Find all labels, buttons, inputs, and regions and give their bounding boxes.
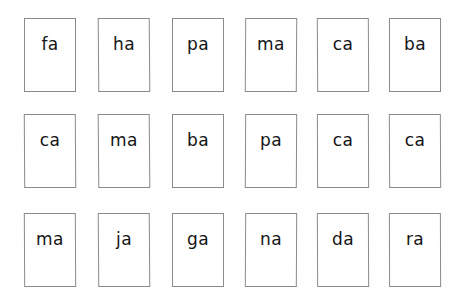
syllable-card[interactable]: pa (245, 114, 297, 188)
syllable-card[interactable]: ga (172, 213, 224, 287)
syllable-card-label: ba (173, 115, 223, 187)
syllable-card-label: na (246, 214, 296, 286)
syllable-card-label: pa (173, 19, 223, 91)
syllable-card[interactable]: ra (389, 213, 441, 287)
syllable-card[interactable]: ha (98, 18, 151, 92)
syllable-card-label: pa (246, 115, 296, 187)
syllable-card[interactable]: ma (245, 18, 297, 92)
syllable-card-label: ha (99, 19, 149, 91)
syllable-card-label: ca (318, 19, 368, 91)
syllable-card-label: ga (173, 214, 223, 286)
syllable-card[interactable]: ja (98, 213, 151, 287)
syllable-card-label: ca (390, 115, 440, 187)
card-row: camabapacaca (0, 114, 464, 190)
flashcard-sheet: fahapamacabacamabapacacamajaganadara (0, 0, 464, 306)
syllable-card[interactable]: ca (317, 114, 369, 188)
syllable-card[interactable]: pa (172, 18, 224, 92)
syllable-card[interactable]: da (317, 213, 369, 287)
syllable-card-label: da (318, 214, 368, 286)
syllable-card-label: ma (246, 19, 296, 91)
syllable-card-label: ma (25, 214, 75, 286)
syllable-card[interactable]: ma (24, 213, 76, 287)
syllable-card[interactable]: ba (389, 18, 441, 92)
syllable-card[interactable]: ma (98, 114, 151, 188)
syllable-card-label: ja (99, 214, 149, 286)
syllable-card-label: fa (25, 19, 75, 91)
syllable-card[interactable]: ca (24, 114, 76, 188)
syllable-card-label: ma (99, 115, 149, 187)
syllable-card-label: ca (25, 115, 75, 187)
syllable-card[interactable]: na (245, 213, 297, 287)
syllable-card[interactable]: ca (389, 114, 441, 188)
card-row: fahapamacaba (0, 18, 464, 94)
syllable-card[interactable]: ba (172, 114, 224, 188)
syllable-card-label: ca (318, 115, 368, 187)
syllable-card[interactable]: fa (24, 18, 76, 92)
syllable-card[interactable]: ca (317, 18, 369, 92)
syllable-card-label: ra (390, 214, 440, 286)
syllable-card-label: ba (390, 19, 440, 91)
card-row: majaganadara (0, 213, 464, 289)
